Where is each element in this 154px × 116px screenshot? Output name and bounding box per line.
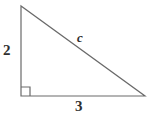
triangle-outline	[21, 6, 145, 96]
label-hypotenuse: c	[77, 31, 83, 44]
right-triangle-figure: 2 3 c	[0, 0, 154, 116]
label-vertical-leg: 2	[3, 43, 11, 58]
right-angle-icon	[21, 87, 30, 96]
label-horizontal-leg: 3	[75, 99, 83, 114]
